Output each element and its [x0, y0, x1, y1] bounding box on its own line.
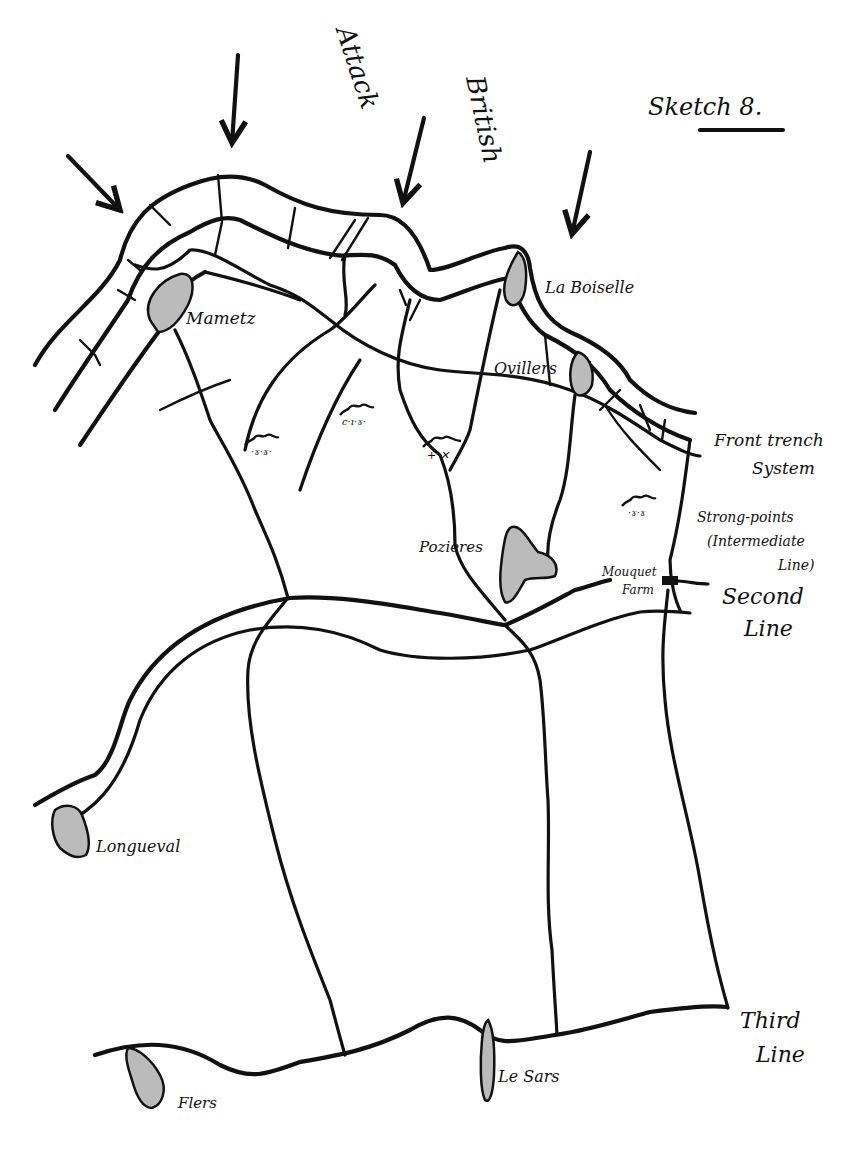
village-longueval: Longueval: [52, 806, 180, 857]
svg-text:System: System: [752, 458, 815, 478]
svg-text:Farm: Farm: [621, 583, 654, 597]
svg-text:Second: Second: [722, 584, 804, 609]
wood-icon: ·ɤ·ɤ·: [245, 435, 279, 457]
svg-text:Mametz: Mametz: [185, 308, 257, 328]
label-second-line: Second Line: [722, 584, 804, 641]
svg-text:Third: Third: [740, 1008, 800, 1033]
second-line: [35, 576, 728, 1055]
svg-text:Line): Line): [777, 557, 815, 573]
svg-text:(Intermediate: (Intermediate: [707, 533, 805, 549]
arrow-icon: [403, 118, 424, 203]
svg-text:·ɤ·ɤ: ·ɤ·ɤ: [628, 507, 646, 518]
svg-text:c·ı·ɤ·: c·ı·ɤ·: [342, 416, 366, 427]
arrow-icon: [232, 55, 238, 143]
village-ovillers: Ovillers: [494, 352, 593, 395]
svg-text:Attack: Attack: [330, 21, 385, 113]
label-third-line: Third Line: [740, 1008, 805, 1067]
svg-text:Ovillers: Ovillers: [494, 359, 557, 378]
third-line: [95, 1006, 727, 1074]
svg-text:Line: Line: [743, 616, 793, 641]
attack-arrows: [68, 55, 590, 234]
svg-text:Front trench: Front trench: [713, 430, 824, 450]
front-trench-system: [35, 175, 700, 456]
village-la-boiselle: La Boiselle: [504, 252, 634, 305]
village-pozieres: Pozières: [418, 527, 556, 603]
label-front-trench-system: Front trench System: [713, 430, 824, 478]
svg-text:Longueval: Longueval: [95, 837, 180, 856]
mouquet-farm-marker: [662, 576, 678, 585]
svg-text:Pozières: Pozières: [418, 538, 483, 556]
sketch-title: Sketch 8.: [648, 93, 783, 130]
svg-text:Line: Line: [755, 1042, 805, 1067]
wood-icon: c·ı·ɤ·: [340, 405, 374, 427]
village-le-sars: Le Sars: [481, 1020, 560, 1101]
wood-icon: ·ɤ·ɤ: [622, 496, 656, 518]
svg-text:Strong-points: Strong-points: [697, 509, 794, 525]
svg-text:·ɤ·ɤ·: ·ɤ·ɤ·: [251, 446, 272, 457]
svg-text:+ ✕: + ✕: [427, 449, 450, 462]
svg-text:Le Sars: Le Sars: [497, 1067, 560, 1086]
svg-text:La Boiselle: La Boiselle: [544, 278, 634, 297]
sketch-map: Sketch 8. Attack British: [0, 0, 853, 1164]
svg-text:Mouquet: Mouquet: [601, 565, 657, 579]
arrow-icon: [68, 156, 120, 210]
label-intermediate-line: Strong-points (Intermediate Line): [697, 509, 815, 573]
svg-text:Flers: Flers: [177, 1094, 217, 1112]
arrow-icon: [572, 152, 590, 234]
svg-text:British: British: [460, 72, 508, 166]
svg-text:Sketch 8.: Sketch 8.: [648, 93, 762, 121]
